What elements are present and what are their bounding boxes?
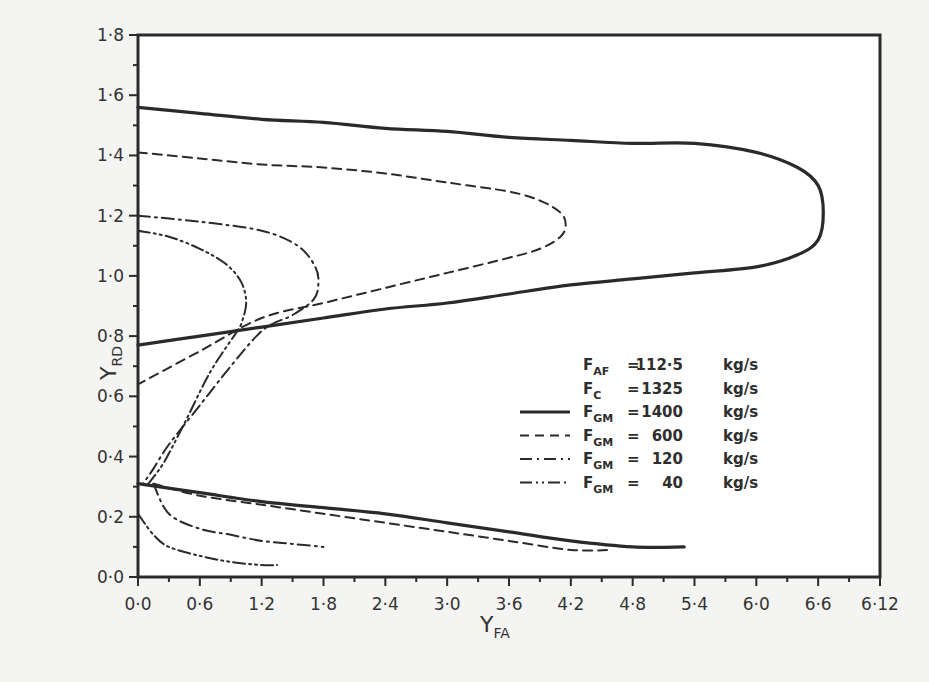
y-tick-label: 0·0: [97, 567, 124, 587]
chart: 0·00·61·21·82·43·03·64·24·85·46·06·66·12…: [0, 0, 929, 682]
x-tick-label: 3·6: [495, 594, 522, 614]
y-tick-label: 1·8: [97, 25, 124, 45]
x-tick-label: 6·0: [743, 594, 770, 614]
x-tick-label: 1·8: [310, 594, 337, 614]
y-tick-label: 1·4: [97, 145, 124, 165]
y-tick-label: 0·4: [97, 447, 124, 467]
x-tick-label: 0·6: [186, 594, 213, 614]
x-axis-label: YFA: [479, 612, 510, 641]
y-tick-label: 0·6: [97, 386, 124, 406]
x-tick-label: 6·6: [805, 594, 832, 614]
x-tick-label: 1·2: [248, 594, 275, 614]
y-tick-label: 1·6: [97, 85, 124, 105]
y-axis-label: YRD: [96, 346, 125, 381]
x-tick-label: 5·4: [681, 594, 708, 614]
y-tick-label: 1·2: [97, 206, 124, 226]
x-tick-label: 6·12: [861, 594, 899, 614]
x-tick-label: 4·2: [557, 594, 584, 614]
y-tick-label: 0·2: [97, 507, 124, 527]
x-tick-label: 2·4: [372, 594, 399, 614]
x-tick-label: 0·0: [124, 594, 151, 614]
y-tick-label: 0·8: [97, 326, 124, 346]
x-tick-label: 4·8: [619, 594, 646, 614]
plot-area: [138, 35, 880, 577]
y-tick-label: 1·0: [97, 266, 124, 286]
x-tick-label: 3·0: [434, 594, 461, 614]
